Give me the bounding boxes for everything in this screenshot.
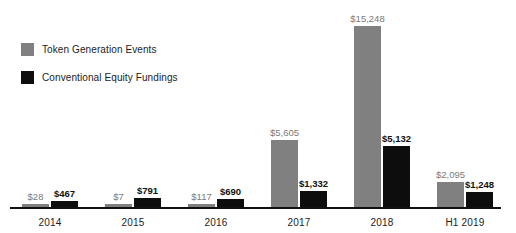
bar-chart: Token Generation Events Conventional Equ… bbox=[0, 0, 516, 233]
bar-value-label: $15,248 bbox=[350, 13, 384, 26]
bar-group-2017: $5,605$1,3322017 bbox=[271, 0, 327, 233]
bar-2014-series-0[interactable]: $28 bbox=[22, 204, 49, 207]
bar-value-label: $117 bbox=[191, 191, 211, 204]
bar-h1-2019-series-0[interactable]: $2,095 bbox=[437, 182, 464, 207]
bar-2016-series-1[interactable]: $690 bbox=[217, 199, 244, 207]
x-axis-label-2018: 2018 bbox=[370, 217, 393, 228]
bar-rect bbox=[271, 140, 298, 207]
bar-group-2015: $7$7912015 bbox=[105, 0, 161, 233]
bar-2016-series-0[interactable]: $117 bbox=[188, 204, 215, 207]
bar-h1-2019-series-1[interactable]: $1,248 bbox=[466, 192, 493, 207]
bar-rect bbox=[466, 192, 493, 207]
bar-2014-series-1[interactable]: $467 bbox=[51, 201, 78, 207]
bar-value-label: $5,605 bbox=[270, 127, 299, 140]
bar-rect bbox=[134, 198, 161, 207]
x-axis-label-h1-2019: H1 2019 bbox=[445, 217, 484, 228]
x-axis-label-2014: 2014 bbox=[38, 217, 61, 228]
bar-group-h1-2019: $2,095$1,248H1 2019 bbox=[437, 0, 493, 233]
bar-2018-series-0[interactable]: $15,248 bbox=[354, 26, 381, 207]
bar-rect bbox=[22, 204, 49, 207]
bar-value-label: $5,132 bbox=[382, 133, 411, 146]
bar-value-label: $1,332 bbox=[299, 178, 328, 191]
bar-value-label: $7 bbox=[113, 191, 124, 204]
bar-group-2016: $117$6902016 bbox=[188, 0, 244, 233]
bar-rect bbox=[437, 182, 464, 207]
bar-2017-series-0[interactable]: $5,605 bbox=[271, 140, 298, 207]
bar-value-label: $28 bbox=[28, 191, 44, 204]
bar-rect bbox=[383, 146, 410, 207]
bar-rect bbox=[300, 191, 327, 207]
plot-area: $28$4672014$7$7912015$117$6902016$5,605$… bbox=[0, 0, 516, 233]
bar-value-label: $2,095 bbox=[436, 169, 465, 182]
bar-rect bbox=[188, 204, 215, 207]
bar-rect bbox=[217, 199, 244, 207]
x-axis-label-2017: 2017 bbox=[287, 217, 310, 228]
bar-value-label: $1,248 bbox=[465, 179, 494, 192]
bar-group-2014: $28$4672014 bbox=[22, 0, 78, 233]
x-axis-label-2016: 2016 bbox=[204, 217, 227, 228]
bar-2018-series-1[interactable]: $5,132 bbox=[383, 146, 410, 207]
bar-rect bbox=[354, 26, 381, 207]
bar-value-label: $467 bbox=[54, 188, 75, 201]
bar-value-label: $791 bbox=[137, 185, 158, 198]
bar-2017-series-1[interactable]: $1,332 bbox=[300, 191, 327, 207]
bar-2015-series-1[interactable]: $791 bbox=[134, 198, 161, 207]
x-axis-baseline bbox=[10, 207, 501, 209]
bar-rect bbox=[51, 201, 78, 207]
bar-2015-series-0[interactable]: $7 bbox=[105, 204, 132, 207]
bar-group-2018: $15,248$5,1322018 bbox=[354, 0, 410, 233]
x-axis-label-2015: 2015 bbox=[121, 217, 144, 228]
bar-value-label: $690 bbox=[220, 186, 241, 199]
bar-rect bbox=[105, 204, 132, 207]
